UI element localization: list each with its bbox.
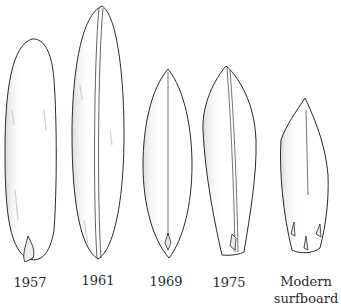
board-modern	[280, 98, 328, 253]
label-1969: 1969	[146, 273, 186, 290]
label-modern: Modern	[271, 273, 341, 290]
label-1961: 1961	[78, 272, 118, 289]
board-1975	[203, 66, 256, 255]
board-1969	[143, 69, 192, 258]
board-1957	[5, 39, 56, 262]
label-modern-line2: surfboard	[271, 290, 341, 307]
board-1961	[72, 6, 124, 259]
label-1975: 1975	[209, 274, 249, 291]
label-1957: 1957	[10, 274, 50, 291]
